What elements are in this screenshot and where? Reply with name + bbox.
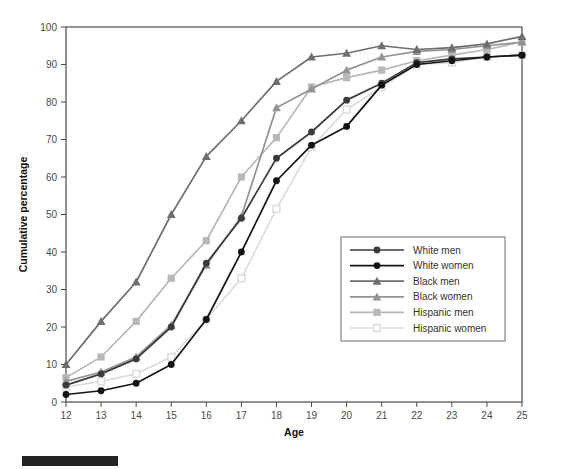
- data-point-marker: [308, 142, 315, 149]
- data-point-marker: [378, 67, 385, 74]
- data-point-marker: [273, 177, 280, 184]
- data-point-marker: [133, 380, 140, 387]
- legend-item-label: Black men: [413, 276, 460, 287]
- data-point-marker: [203, 260, 210, 267]
- x-axis-tick-label: 21: [376, 410, 388, 421]
- chart-legend: White menWhite womenBlack menBlack women…: [341, 237, 505, 341]
- footer-bar: [22, 456, 118, 466]
- x-axis-tick-label: 14: [131, 410, 143, 421]
- data-point-marker: [273, 155, 280, 162]
- plot-area-frame: [66, 27, 522, 402]
- y-axis-tick-label: 40: [46, 247, 58, 258]
- data-point-marker: [98, 370, 105, 377]
- x-axis-tick-label: 19: [306, 410, 318, 421]
- data-point-marker: [373, 309, 380, 316]
- data-point-marker: [168, 275, 175, 282]
- x-axis-title: Age: [284, 426, 304, 438]
- data-point-marker: [238, 249, 245, 256]
- data-point-marker: [98, 387, 105, 394]
- y-axis-tick-label: 80: [46, 97, 58, 108]
- data-point-marker: [168, 324, 175, 331]
- x-axis-tick-label: 24: [481, 410, 493, 421]
- data-point-marker: [238, 215, 245, 222]
- data-point-marker: [238, 173, 245, 180]
- y-axis-tick-label: 10: [46, 359, 58, 370]
- x-axis-tick-label: 12: [60, 410, 72, 421]
- data-point-marker: [273, 205, 280, 212]
- legend-item-label: White men: [413, 245, 461, 256]
- data-point-marker: [168, 354, 175, 361]
- data-point-marker: [413, 61, 420, 68]
- y-axis-tick-label: 100: [40, 22, 57, 33]
- legend-item-label: Hispanic men: [413, 307, 474, 318]
- data-point-marker: [97, 353, 104, 360]
- data-point-marker: [273, 134, 280, 141]
- data-point-marker: [378, 82, 385, 89]
- data-point-marker: [133, 370, 140, 377]
- y-axis-tick-label: 50: [46, 209, 58, 220]
- data-point-marker: [519, 52, 526, 59]
- data-point-marker: [63, 382, 70, 389]
- data-point-marker: [203, 237, 210, 244]
- x-axis-tick-label: 20: [341, 410, 353, 421]
- line-chart: 0102030405060708090100121314151617181920…: [0, 0, 563, 469]
- data-point-marker: [374, 247, 381, 254]
- data-point-marker: [63, 391, 70, 398]
- data-point-marker: [168, 361, 175, 368]
- data-point-marker: [308, 129, 315, 136]
- legend-item-label: White women: [413, 260, 474, 271]
- chart-figure: 0102030405060708090100121314151617181920…: [0, 0, 563, 469]
- data-point-marker: [133, 355, 140, 362]
- data-point-marker: [238, 275, 245, 282]
- x-axis-tick-label: 13: [96, 410, 108, 421]
- x-axis-tick-label: 25: [516, 410, 528, 421]
- data-point-marker: [343, 123, 350, 130]
- y-axis-tick-label: 0: [51, 397, 57, 408]
- data-point-marker: [98, 378, 105, 385]
- x-axis-tick-label: 16: [201, 410, 213, 421]
- data-point-marker: [133, 318, 140, 325]
- y-axis-tick-label: 90: [46, 59, 58, 70]
- y-axis-tick-label: 30: [46, 284, 58, 295]
- data-point-marker: [484, 54, 491, 61]
- x-axis-tick-label: 18: [271, 410, 283, 421]
- data-point-marker: [374, 262, 381, 269]
- data-point-marker: [448, 57, 455, 64]
- y-axis-tick-label: 20: [46, 322, 58, 333]
- data-point-marker: [343, 97, 350, 104]
- legend-item-label: Black women: [413, 291, 472, 302]
- y-axis-title: Cumulative percentage: [17, 157, 29, 273]
- data-point-marker: [203, 316, 210, 323]
- x-axis-tick-label: 17: [236, 410, 248, 421]
- data-point-marker: [343, 74, 350, 81]
- x-axis-tick-label: 15: [166, 410, 178, 421]
- data-point-marker: [343, 106, 350, 113]
- y-axis-tick-label: 60: [46, 172, 58, 183]
- data-point-marker: [374, 325, 381, 332]
- y-axis-tick-label: 70: [46, 134, 58, 145]
- x-axis-tick-label: 23: [446, 410, 458, 421]
- legend-item-label: Hispanic women: [413, 323, 486, 334]
- x-axis-tick-label: 22: [411, 410, 423, 421]
